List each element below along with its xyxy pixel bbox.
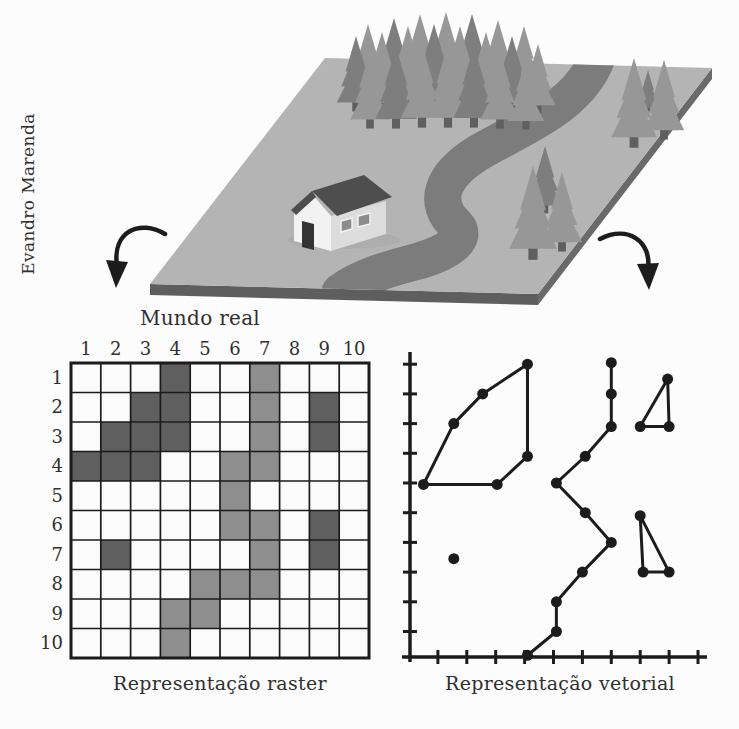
raster-col-label: 3 xyxy=(140,338,151,359)
raster-row-label: 8 xyxy=(52,573,63,594)
vector-point xyxy=(580,451,591,462)
vector-chart xyxy=(395,340,739,675)
raster-cell-dark xyxy=(101,540,131,570)
raster-cell-dark xyxy=(309,511,339,541)
raster-row-label: 7 xyxy=(52,544,63,565)
raster-cell-dark xyxy=(131,422,161,452)
forest xyxy=(337,12,556,129)
raster-cell-medium xyxy=(190,570,220,600)
raster-cell-dark xyxy=(160,393,190,423)
forest-polygon xyxy=(423,364,527,484)
tree-triangle xyxy=(640,516,669,572)
raster-cell-medium xyxy=(250,540,280,570)
real-world-label: Mundo real xyxy=(100,306,300,330)
vector-point xyxy=(522,451,533,462)
vector-point xyxy=(551,596,562,607)
vector-point xyxy=(638,567,649,578)
vector-point xyxy=(577,567,588,578)
raster-cell-dark xyxy=(101,452,131,482)
vector-point xyxy=(522,650,533,661)
raster-cell-dark xyxy=(309,422,339,452)
raster-col-label: 2 xyxy=(110,338,121,359)
raster-cell-medium xyxy=(250,511,280,541)
curved-arrow-right xyxy=(600,234,659,290)
raster-col-label: 8 xyxy=(289,338,300,359)
vector-point xyxy=(418,479,429,490)
tree-tier xyxy=(514,26,533,59)
vector-point xyxy=(664,567,675,578)
raster-row-label: 3 xyxy=(52,426,63,447)
raster-cell-medium xyxy=(220,570,250,600)
vector-point xyxy=(477,388,488,399)
raster-cell-medium xyxy=(250,422,280,452)
vector-point xyxy=(635,510,646,521)
raster-col-label: 5 xyxy=(199,338,210,359)
vector-point xyxy=(606,421,617,432)
river-polyline xyxy=(527,363,611,656)
vector-point xyxy=(492,479,503,490)
raster-row-label: 2 xyxy=(52,396,63,417)
raster-caption: Representação raster xyxy=(60,672,380,694)
vector-point xyxy=(606,357,617,368)
raster-row-label: 4 xyxy=(52,455,63,476)
raster-row-label: 1 xyxy=(52,367,63,388)
raster-col-label: 4 xyxy=(170,338,181,359)
raster-cell-medium xyxy=(220,481,250,511)
raster-col-label: 10 xyxy=(343,338,366,359)
vector-point xyxy=(522,359,533,370)
raster-row-label: 5 xyxy=(52,485,63,506)
vector-point xyxy=(662,374,673,385)
raster-cell-medium xyxy=(250,363,280,393)
raster-row-label: 9 xyxy=(52,603,63,624)
vector-caption: Representação vetorial xyxy=(400,672,720,694)
raster-cell-medium xyxy=(250,570,280,600)
vector-point xyxy=(606,388,617,399)
figure-canvas: Evandro Marenda xyxy=(0,0,739,729)
raster-cell-dark xyxy=(131,393,161,423)
raster-grid: 1234567891012345678910 xyxy=(40,333,385,668)
raster-cell-medium xyxy=(160,629,190,659)
house-door xyxy=(302,221,314,250)
raster-row-label: 10 xyxy=(40,632,63,653)
raster-cell-dark xyxy=(101,422,131,452)
raster-cell-dark xyxy=(160,422,190,452)
vector-point xyxy=(664,421,675,432)
raster-cell-medium xyxy=(250,452,280,482)
raster-row-label: 6 xyxy=(52,514,63,535)
house-window xyxy=(341,218,352,232)
vector-point xyxy=(606,537,617,548)
raster-cell-medium xyxy=(220,511,250,541)
raster-cell-dark xyxy=(131,452,161,482)
raster-cell-dark xyxy=(309,540,339,570)
raster-cell-medium xyxy=(160,599,190,629)
vector-point xyxy=(551,626,562,637)
tree-tier xyxy=(358,24,378,58)
raster-cell-medium xyxy=(190,599,220,629)
raster-cell-medium xyxy=(220,452,250,482)
vector-point xyxy=(580,507,591,518)
tree-triangle xyxy=(640,379,669,427)
raster-cell-dark xyxy=(71,452,101,482)
vector-point xyxy=(448,418,459,429)
real-world-scene xyxy=(0,0,739,332)
raster-col-label: 1 xyxy=(80,338,91,359)
raster-col-label: 9 xyxy=(319,338,330,359)
raster-cell-dark xyxy=(309,393,339,423)
raster-cell-medium xyxy=(250,393,280,423)
house-window xyxy=(358,213,370,227)
vector-point xyxy=(635,421,646,432)
raster-col-label: 7 xyxy=(259,338,270,359)
vector-point xyxy=(551,478,562,489)
raster-col-label: 6 xyxy=(229,338,240,359)
vector-point xyxy=(448,553,459,564)
raster-cell-dark xyxy=(160,363,190,393)
